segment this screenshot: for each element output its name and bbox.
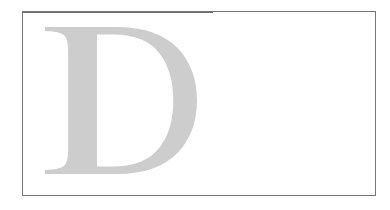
body-text-area [213,12,375,195]
dropcap-area: D [23,12,213,195]
page-canvas: D [0,0,390,210]
content-frame: D [22,11,376,196]
dropcap-d-icon [31,11,211,193]
dropcap-letter-d [31,11,211,193]
